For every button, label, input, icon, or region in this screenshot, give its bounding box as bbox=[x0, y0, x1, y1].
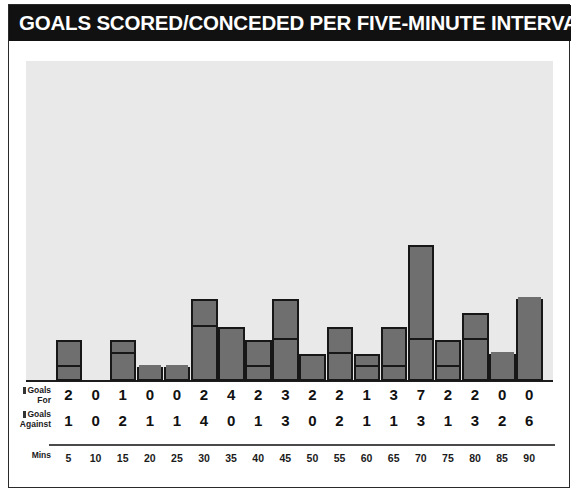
cell-mins-75: 75 bbox=[434, 452, 462, 464]
bar-40min bbox=[245, 340, 272, 381]
cell-mins-90: 90 bbox=[515, 452, 543, 464]
cell-goals-against-15: 2 bbox=[109, 412, 137, 429]
cell-goals-for-80: 2 bbox=[461, 386, 489, 403]
bar-segment-against bbox=[410, 338, 433, 379]
bar-segment-against bbox=[112, 352, 135, 379]
cell-goals-for-15: 1 bbox=[109, 386, 137, 403]
bar-65min bbox=[381, 327, 408, 381]
cell-goals-against-20: 1 bbox=[136, 412, 164, 429]
bar-15min bbox=[110, 340, 137, 381]
bar-segment-against bbox=[166, 365, 189, 379]
bar-70min bbox=[408, 245, 435, 381]
cell-goals-for-10: 0 bbox=[82, 386, 110, 403]
cell-goals-for-75: 2 bbox=[434, 386, 462, 403]
cell-goals-against-85: 2 bbox=[488, 412, 516, 429]
bar-20min bbox=[137, 367, 164, 381]
cell-goals-against-70: 3 bbox=[407, 412, 435, 429]
cell-goals-against-45: 3 bbox=[271, 412, 299, 429]
cell-goals-against-40: 1 bbox=[244, 412, 272, 429]
bar-45min bbox=[272, 299, 299, 381]
bar-30min bbox=[191, 299, 218, 381]
cell-goals-for-85: 0 bbox=[488, 386, 516, 403]
bar-segment-against bbox=[383, 365, 406, 379]
bar-segment-against bbox=[139, 365, 162, 379]
bar-segment-against bbox=[356, 365, 379, 379]
cell-goals-against-80: 3 bbox=[461, 412, 489, 429]
cell-mins-40: 40 bbox=[244, 452, 272, 464]
bar-segment-against bbox=[274, 338, 297, 379]
bar-segment-against bbox=[518, 297, 541, 379]
cell-goals-against-50: 0 bbox=[298, 412, 326, 429]
cell-mins-25: 25 bbox=[163, 452, 191, 464]
bar-85min bbox=[489, 354, 516, 381]
cell-goals-against-10: 0 bbox=[82, 412, 110, 429]
legend-goals-against: Goals Against bbox=[5, 410, 51, 429]
cell-goals-against-65: 1 bbox=[380, 412, 408, 429]
title-bar: GOALS SCORED/CONCEDED PER FIVE-MINUTE IN… bbox=[9, 5, 571, 41]
chart-panel: GOALS SCORED/CONCEDED PER FIVE-MINUTE IN… bbox=[8, 4, 570, 488]
cell-mins-30: 30 bbox=[190, 452, 218, 464]
bar-35min bbox=[218, 327, 245, 381]
cell-goals-for-20: 0 bbox=[136, 386, 164, 403]
bar-5min bbox=[56, 340, 83, 381]
bar-segment-against bbox=[491, 352, 514, 379]
cell-mins-15: 15 bbox=[109, 452, 137, 464]
legend-goals-for-line1: Goals bbox=[27, 385, 51, 395]
cell-mins-55: 55 bbox=[326, 452, 354, 464]
cell-goals-for-55: 2 bbox=[326, 386, 354, 403]
cell-goals-for-30: 2 bbox=[190, 386, 218, 403]
cell-mins-50: 50 bbox=[298, 452, 326, 464]
legend-goals-against-line1: Goals bbox=[27, 409, 51, 419]
bar-90min bbox=[516, 299, 543, 381]
bar-segment-against bbox=[329, 352, 352, 379]
cell-mins-85: 85 bbox=[488, 452, 516, 464]
bar-segment-against bbox=[58, 365, 81, 379]
cell-goals-against-90: 6 bbox=[515, 412, 543, 429]
cell-mins-65: 65 bbox=[380, 452, 408, 464]
legend-swatch-icon bbox=[23, 387, 26, 394]
mins-label-text: Mins bbox=[32, 450, 51, 460]
cell-goals-for-25: 0 bbox=[163, 386, 191, 403]
cell-mins-45: 45 bbox=[271, 452, 299, 464]
bar-25min bbox=[164, 367, 191, 381]
bar-segment-against bbox=[464, 338, 487, 379]
cell-goals-against-75: 1 bbox=[434, 412, 462, 429]
cell-goals-for-60: 1 bbox=[353, 386, 381, 403]
cell-goals-for-90: 0 bbox=[515, 386, 543, 403]
page-title: GOALS SCORED/CONCEDED PER FIVE-MINUTE IN… bbox=[19, 11, 578, 35]
axis-label-mins: Mins bbox=[5, 451, 51, 461]
cell-goals-against-25: 1 bbox=[163, 412, 191, 429]
bar-55min bbox=[327, 327, 354, 381]
cell-mins-20: 20 bbox=[136, 452, 164, 464]
cell-mins-35: 35 bbox=[217, 452, 245, 464]
bar-50min bbox=[299, 354, 326, 381]
bar-80min bbox=[462, 313, 489, 381]
cell-goals-for-65: 3 bbox=[380, 386, 408, 403]
cell-goals-for-50: 2 bbox=[298, 386, 326, 403]
legend-goals-against-line2: Against bbox=[20, 419, 51, 429]
cell-mins-70: 70 bbox=[407, 452, 435, 464]
cell-goals-against-55: 2 bbox=[326, 412, 354, 429]
table-divider bbox=[49, 444, 555, 446]
cell-goals-against-30: 4 bbox=[190, 412, 218, 429]
cell-mins-5: 5 bbox=[55, 452, 83, 464]
cell-goals-for-70: 7 bbox=[407, 386, 435, 403]
bar-60min bbox=[354, 354, 381, 381]
legend-goals-for-line2: For bbox=[37, 395, 51, 405]
data-table: Goals For Goals Against Mins 21500101215… bbox=[9, 384, 571, 488]
cell-goals-against-5: 1 bbox=[55, 412, 83, 429]
cell-goals-for-45: 3 bbox=[271, 386, 299, 403]
legend-goals-for: Goals For bbox=[5, 386, 51, 405]
bar-75min bbox=[435, 340, 462, 381]
cell-goals-against-35: 0 bbox=[217, 412, 245, 429]
cell-mins-80: 80 bbox=[461, 452, 489, 464]
bar-segment-against bbox=[437, 365, 460, 379]
legend-swatch-icon bbox=[23, 411, 26, 418]
cell-mins-60: 60 bbox=[353, 452, 381, 464]
cell-mins-10: 10 bbox=[82, 452, 110, 464]
cell-goals-for-35: 4 bbox=[217, 386, 245, 403]
bar-segment-against bbox=[247, 365, 270, 379]
cell-goals-for-40: 2 bbox=[244, 386, 272, 403]
bar-segment-against bbox=[193, 325, 216, 379]
cell-goals-for-5: 2 bbox=[55, 386, 83, 403]
